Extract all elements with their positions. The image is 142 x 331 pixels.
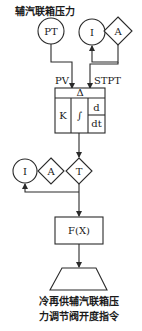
setpoint-feedback-line xyxy=(92,45,118,62)
manual-indicator-label: I xyxy=(23,166,27,177)
output-description-line2: 力调节阀开度指令 xyxy=(39,310,120,322)
setpoint-indicator-label: I xyxy=(90,27,94,38)
pt-label: PT xyxy=(44,26,58,37)
transfer-label: T xyxy=(76,166,83,177)
manual-feedback-line xyxy=(25,184,79,192)
output-description-line1: 冷再供辅汽联箱压 xyxy=(39,295,119,307)
pressure-transmitter: PT xyxy=(38,18,64,44)
derivative-den-label: dt xyxy=(91,118,101,129)
manual-auto-label: A xyxy=(46,166,55,177)
function-label: F(X) xyxy=(68,225,90,236)
manual-station: I A T xyxy=(13,158,92,184)
stpt-label: STPT xyxy=(94,75,121,86)
delta-label: Δ xyxy=(76,87,83,98)
pv-label: PV xyxy=(55,75,70,86)
title-text: 辅汽联箱压力 xyxy=(15,5,75,17)
proportional-label: K xyxy=(59,110,67,121)
control-logic-diagram: 辅汽联箱压力 PT I A PV STPT Δ K ∫ d dt I A xyxy=(0,0,142,331)
setpoint-auto-label: A xyxy=(113,26,122,37)
setpoint-station: I A xyxy=(79,17,132,45)
function-block: F(X) xyxy=(55,217,103,244)
integral-label: ∫ xyxy=(77,110,82,121)
pid-block: Δ K ∫ d dt xyxy=(55,87,105,133)
valve-output-symbol xyxy=(50,268,107,290)
derivative-num-label: d xyxy=(93,102,100,113)
